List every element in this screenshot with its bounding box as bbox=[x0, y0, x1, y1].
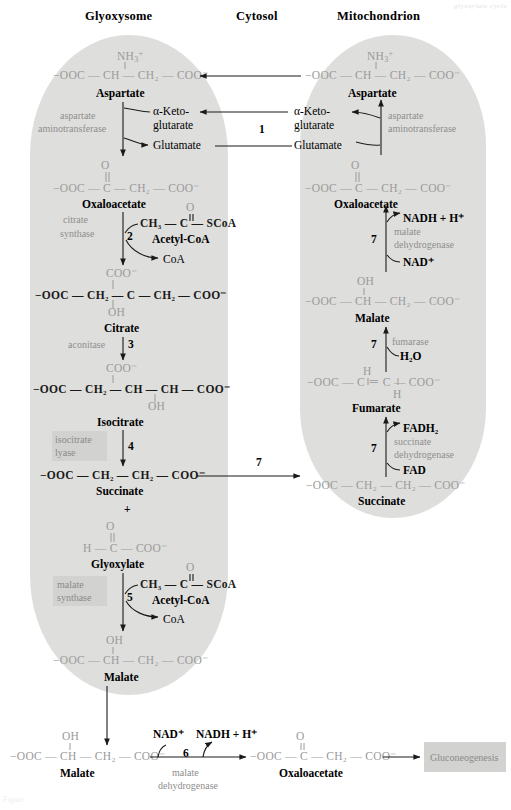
bottom-nadh-product: NADH + H⁺ bbox=[196, 729, 257, 741]
pathway-diagram: glyoxylate cycle Figure Glyoxysome Cytos… bbox=[0, 0, 511, 810]
acetyl-coa-formula: CH₃ — C — SCoA bbox=[140, 218, 236, 230]
mito-aspartate-amine: NH3+ bbox=[367, 50, 393, 64]
bottom-watermark: Figure bbox=[3, 795, 24, 804]
fumarate-formula: −OOC — C ＝ C — COO⁻ bbox=[307, 377, 440, 389]
glyoxysome-succinate-label: Succinate bbox=[96, 486, 143, 498]
fumarase-label: fumarase bbox=[392, 337, 429, 347]
mito-succinate-label: Succinate bbox=[358, 496, 405, 508]
coa-product-2: CoA bbox=[163, 614, 185, 626]
glyoxysome-aspartate-formula: −OOC — CH — CH₂ — COO⁻ bbox=[53, 70, 208, 82]
isocitrate-top-coo: COO⁻ bbox=[106, 363, 137, 375]
water-product: H₂O bbox=[400, 351, 421, 363]
step-7a-number: 7 bbox=[371, 234, 377, 246]
bottom-oxaloacetate-carbonyl: O bbox=[296, 731, 305, 743]
glyoxylate-formula: H — C — COO⁻ bbox=[83, 543, 167, 555]
acetyl-coa-carbonyl: O bbox=[186, 202, 195, 214]
glyoxylate-carbonyl: O bbox=[106, 521, 115, 533]
citrate-label: Citrate bbox=[104, 323, 139, 335]
fad-substrate: FAD bbox=[403, 465, 426, 477]
isocitrate-lyase-line1: isocitrate bbox=[55, 434, 92, 446]
mito-malate-formula: −OOC — CH — CH₂ — COO⁻ bbox=[305, 296, 460, 308]
mito-oxaloacetate-label: Oxaloacetate bbox=[334, 199, 398, 211]
fadh2-product: FADH₂ bbox=[403, 423, 438, 435]
glyoxysome-aspartate-amine: NH3+ bbox=[117, 50, 143, 64]
bottom-malate-formula: −OOC — CH — CH₂ — COO⁻ bbox=[10, 751, 165, 763]
mito-succinate-formula: −OOC — CH₂ — CH₂ — COO⁻ bbox=[306, 480, 466, 492]
step-1-number: 1 bbox=[259, 124, 265, 136]
step-7-transport-number: 7 bbox=[256, 457, 262, 469]
bottom-oxaloacetate-label: Oxaloacetate bbox=[279, 768, 343, 780]
mito-malate-top-oh: OH bbox=[357, 276, 374, 288]
glyoxysome-alpha-ketoglutarate-line2: glutarate bbox=[153, 120, 193, 132]
glyoxysome-oxaloacetate-carbonyl: O bbox=[101, 160, 110, 172]
glyoxysome-aspartate-aminotransferase-line2: aminotransferase bbox=[38, 124, 106, 134]
glyoxysome-succinate-formula: −OOC — CH₂ — CH₂ — COO⁻ bbox=[40, 470, 205, 482]
acetyl-coa-2-label: Acetyl-CoA bbox=[152, 595, 209, 607]
mito-aspartate-aminotransferase-line1: aspartate bbox=[388, 111, 424, 121]
glyoxysome-malate-label: Malate bbox=[104, 672, 138, 684]
mito-alpha-ketoglutarate-line1: α-Keto- bbox=[294, 106, 330, 118]
header-mitochondrion: Mitochondrion bbox=[337, 10, 420, 23]
isocitrate-bottom-oh: OH bbox=[148, 401, 165, 413]
glyoxysome-alpha-ketoglutarate-line1: α-Keto- bbox=[153, 106, 189, 118]
bottom-malate-dehydrogenase-line2: dehydrogenase bbox=[158, 781, 218, 791]
mito-glutamate: Glutamate bbox=[294, 140, 342, 152]
malate-synthase-line1: malate bbox=[57, 579, 84, 591]
bottom-oxaloacetate-formula: −OOC — C — CH₂ — COO⁻ bbox=[250, 751, 397, 763]
citrate-formula: −OOC — CH₂ — C — CH₂ — COO⁻ bbox=[35, 290, 227, 302]
mito-nad-substrate: NAD⁺ bbox=[403, 257, 434, 269]
glyoxysome-aspartate-aminotransferase-line1: aspartate bbox=[60, 111, 96, 121]
step-3-number: 3 bbox=[128, 339, 134, 351]
step-6-number: 6 bbox=[183, 748, 189, 760]
mito-aspartate-aminotransferase-line2: aminotransferase bbox=[388, 124, 456, 134]
header-glyoxysome: Glyoxysome bbox=[85, 10, 152, 23]
bottom-malate-label: Malate bbox=[60, 768, 94, 780]
mito-nadh-product: NADH + H⁺ bbox=[403, 213, 464, 225]
bottom-malate-dehydrogenase-line1: malate bbox=[172, 768, 199, 778]
step-7c-number: 7 bbox=[371, 443, 377, 455]
coa-product-1: CoA bbox=[163, 254, 185, 266]
isocitrate-lyase-line2: lyase bbox=[55, 447, 76, 459]
mito-oxaloacetate-carbonyl: O bbox=[351, 160, 360, 172]
glyoxysome-malate-top-oh: OH bbox=[106, 635, 123, 647]
succinate-dehydrogenase-line1: succinate bbox=[394, 437, 431, 447]
succinate-plus-glyoxylate: + bbox=[124, 504, 131, 516]
malate-synthase-line2: synthase bbox=[57, 592, 91, 604]
acetyl-coa-label: Acetyl-CoA bbox=[152, 234, 209, 246]
glyoxysome-oxaloacetate-formula: −OOC — C — CH₂ — COO⁻ bbox=[53, 183, 200, 195]
mito-alpha-ketoglutarate-line2: glutarate bbox=[294, 120, 334, 132]
glyoxysome-oxaloacetate-label: Oxaloacetate bbox=[82, 199, 146, 211]
acetyl-coa-2-carbonyl: O bbox=[186, 562, 195, 574]
step-7b-number: 7 bbox=[371, 339, 377, 351]
mito-aspartate-formula: −OOC — CH — CH₂ — COO⁻ bbox=[305, 70, 460, 82]
step-2-number: 2 bbox=[127, 231, 133, 243]
bottom-malate-top-oh: OH bbox=[62, 731, 79, 743]
gluconeogenesis-label: Gluconeogenesis bbox=[430, 752, 498, 764]
glyoxysome-malate-formula: −OOC — CH — CH₂ — COO⁻ bbox=[53, 655, 208, 667]
step-5-number: 5 bbox=[127, 592, 133, 604]
citrate-top-coo: COO⁻ bbox=[106, 268, 137, 280]
citrate-synthase-line2: synthase bbox=[60, 229, 94, 239]
aconitase-label: aconitase bbox=[68, 340, 105, 350]
fumarate-bottom-h: H bbox=[393, 389, 402, 401]
citrate-synthase-line1: citrate bbox=[63, 215, 88, 225]
glyoxysome-glutamate: Glutamate bbox=[153, 140, 201, 152]
step-4-number: 4 bbox=[128, 441, 134, 453]
acetyl-coa-2-formula: CH₃ — C — SCoA bbox=[140, 579, 236, 591]
isocitrate-label: Isocitrate bbox=[97, 417, 144, 429]
fumarate-label: Fumarate bbox=[352, 403, 401, 415]
mito-aspartate-label: Aspartate bbox=[348, 88, 397, 100]
glyoxylate-label: Glyoxylate bbox=[91, 559, 144, 571]
corner-watermark: glyoxylate cycle bbox=[454, 2, 507, 10]
mito-oxaloacetate-formula: −OOC — C — CH₂ — COO⁻ bbox=[305, 183, 452, 195]
isocitrate-formula: −OOC — CH₂ — CH — CH — COO⁻ bbox=[33, 384, 230, 396]
citrate-bottom-oh: OH bbox=[108, 307, 125, 319]
bottom-nad-substrate: NAD⁺ bbox=[153, 729, 184, 741]
succinate-dehydrogenase-line2: dehydrogenase bbox=[394, 450, 454, 460]
mito-malate-label: Malate bbox=[355, 313, 389, 325]
mito-malate-dehydrogenase-line1: malate bbox=[394, 227, 421, 237]
mito-malate-dehydrogenase-line2: dehydrogenase bbox=[394, 240, 454, 250]
header-cytosol: Cytosol bbox=[236, 10, 278, 23]
glyoxysome-aspartate-label: Aspartate bbox=[96, 88, 145, 100]
